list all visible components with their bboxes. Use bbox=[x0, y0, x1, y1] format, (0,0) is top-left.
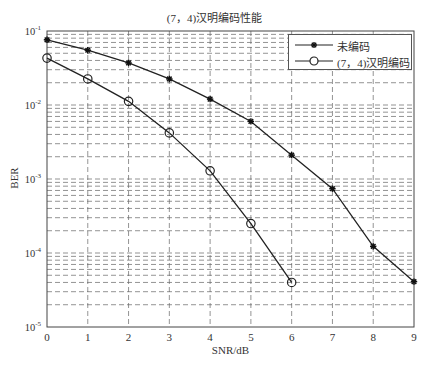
data-series bbox=[43, 37, 417, 287]
star-marker-icon bbox=[85, 47, 91, 53]
legend: 未编码 (7，4)汉明编码 bbox=[288, 34, 412, 70]
x-tick-label: 4 bbox=[207, 331, 213, 343]
legend-label: 未编码 bbox=[337, 38, 370, 54]
plot-frame bbox=[47, 31, 414, 327]
star-marker-icon bbox=[44, 37, 50, 43]
star-marker-icon bbox=[288, 152, 294, 158]
legend-item-hamming: (7，4)汉明编码 bbox=[289, 53, 411, 69]
chart-title: (7，4)汉明编码性能 bbox=[0, 9, 429, 25]
star-marker-icon bbox=[207, 96, 213, 102]
x-tick-label: 9 bbox=[411, 331, 417, 343]
x-tick-label: 3 bbox=[167, 331, 173, 343]
y-axis-label: BER bbox=[8, 158, 20, 198]
legend-item-uncoded: 未编码 bbox=[289, 37, 411, 53]
y-tick-label: 10-5 bbox=[25, 320, 42, 333]
y-tick-label: 10-3 bbox=[25, 172, 42, 185]
axis-ticks: 012345678910-110-210-310-410-5 bbox=[25, 24, 418, 343]
x-tick-label: 1 bbox=[85, 331, 91, 343]
y-tick-label: 10-4 bbox=[25, 246, 42, 259]
x-tick-label: 5 bbox=[248, 331, 254, 343]
x-tick-label: 2 bbox=[126, 331, 132, 343]
series-line-0 bbox=[47, 40, 414, 282]
star-marker-icon bbox=[329, 185, 335, 191]
star-marker-icon bbox=[166, 76, 172, 82]
star-marker-icon bbox=[125, 60, 131, 66]
x-tick-label: 7 bbox=[330, 331, 336, 343]
star-marker-icon bbox=[411, 278, 417, 284]
x-tick-label: 8 bbox=[370, 331, 376, 343]
y-tick-label: 10-2 bbox=[25, 98, 42, 111]
grid-lines bbox=[47, 31, 414, 327]
star-marker-icon bbox=[295, 37, 335, 53]
star-marker-icon bbox=[248, 118, 254, 124]
x-tick-label: 0 bbox=[44, 331, 50, 343]
legend-label: (7，4)汉明编码 bbox=[337, 54, 410, 70]
star-marker-icon bbox=[370, 243, 376, 249]
y-tick-label: 10-1 bbox=[25, 24, 42, 37]
x-axis-label: SNR/dB bbox=[47, 344, 414, 356]
circle-marker-icon bbox=[295, 53, 335, 69]
x-tick-label: 6 bbox=[289, 331, 295, 343]
